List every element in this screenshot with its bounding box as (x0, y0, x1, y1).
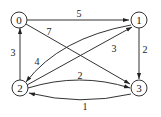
edge-3-to-2: 1 (29, 93, 131, 112)
edge-weight-2-3: 2 (78, 70, 83, 81)
node-1: 1 (131, 12, 147, 28)
edge-1-to-3: 2 (139, 28, 148, 79)
node-label-3: 3 (136, 82, 142, 94)
edge-weight-2-0: 3 (11, 47, 16, 58)
edge-2-to-3: 2 (28, 70, 130, 89)
edge-weight-2-1: 3 (112, 43, 117, 54)
edge-weight-1-2: 4 (35, 56, 40, 67)
edge-0-to-1: 5 (27, 8, 129, 21)
edge-weight-0-3: 7 (47, 26, 52, 37)
node-label-2: 2 (17, 82, 23, 94)
node-3: 3 (131, 80, 147, 96)
node-0: 0 (11, 12, 27, 28)
edge-weight-1-3: 2 (143, 44, 148, 55)
edge-2-to-0: 3 (11, 28, 21, 80)
node-2: 2 (12, 80, 28, 96)
edge-weight-3-2: 1 (83, 101, 88, 112)
node-label-0: 0 (16, 14, 22, 26)
directed-graph: 5 7 3 2 4 3 2 (0, 0, 161, 117)
edge-weight-0-1: 5 (77, 8, 82, 19)
node-label-1: 1 (136, 14, 142, 26)
